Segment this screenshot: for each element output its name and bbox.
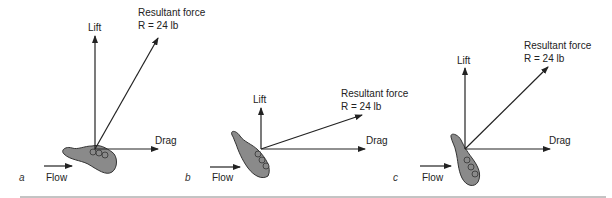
resultant-arrow <box>95 38 158 149</box>
resultant-arrow <box>465 67 548 149</box>
panel-label: a <box>19 172 25 183</box>
lift-label: Lift <box>88 22 102 33</box>
resultant-value: R = 24 lb <box>524 53 565 64</box>
panel-b: Lift Resultant force R = 24 lb Drag Flow… <box>185 88 409 183</box>
drag-label: Drag <box>549 135 571 146</box>
resultant-arrow <box>261 115 362 149</box>
hand-shape <box>232 131 270 177</box>
flow-label: Flow <box>212 172 234 183</box>
flow-label: Flow <box>422 172 444 183</box>
resultant-title: Resultant force <box>341 88 409 99</box>
resultant-title: Resultant force <box>138 7 206 18</box>
panel-label: b <box>185 172 191 183</box>
lift-label: Lift <box>253 94 267 105</box>
resultant-title: Resultant force <box>524 40 592 51</box>
panel-a: Lift Resultant force R = 24 lb Drag Flow… <box>19 7 206 183</box>
resultant-value: R = 24 lb <box>138 20 179 31</box>
hand-shape <box>63 145 117 173</box>
panel-label: c <box>393 172 398 183</box>
flow-label: Flow <box>46 172 68 183</box>
drag-label: Drag <box>366 135 388 146</box>
lift-label: Lift <box>457 55 471 66</box>
force-diagram: Lift Resultant force R = 24 lb Drag Flow… <box>0 0 612 198</box>
resultant-value: R = 24 lb <box>341 101 382 112</box>
panel-c: Lift Resultant force R = 24 lb Drag Flow… <box>393 40 592 185</box>
drag-label: Drag <box>155 135 177 146</box>
